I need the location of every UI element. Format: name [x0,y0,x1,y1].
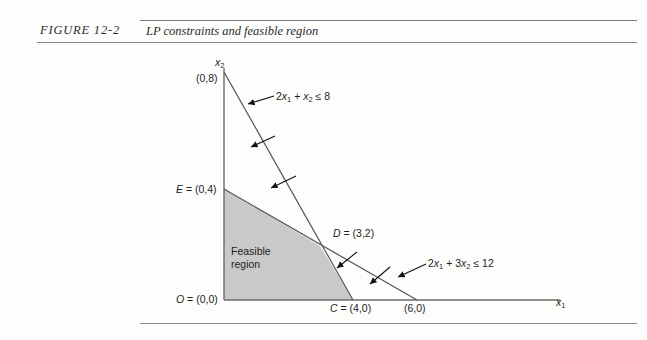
vertex-label-d: D = (3,2) [333,227,374,239]
constraint-2-label-leader [398,264,426,277]
y-axis-label: x2 [215,56,224,70]
x-axis-label: x1 [556,296,565,310]
constraint-1-label: 2x1 + x2 ≤ 8 [276,90,330,104]
vertex-label-0-8: (0,8) [196,72,218,84]
constraint-1-direction-arrow-1 [251,136,275,147]
lp-graph [0,0,647,340]
constraint-2-direction-arrow-1 [337,252,357,268]
figure-bottom-rule [140,323,637,324]
figure-container: FIGURE 12-2 LP constraints and feasible … [0,0,647,340]
constraint-2-label: 2x1 + 3x2 ≤ 12 [428,257,494,271]
vertex-label-o: O = (0,0) [176,293,218,305]
feasible-region-label: Feasible region [231,245,291,271]
constraint-1-label-leader [248,96,274,104]
vertex-label-c: C = (4,0) [330,302,371,314]
vertex-label-e: E = (0,4) [176,183,217,195]
point-label-6-0: (6,0) [404,302,426,314]
constraint-2-direction-arrow-2 [370,267,390,284]
